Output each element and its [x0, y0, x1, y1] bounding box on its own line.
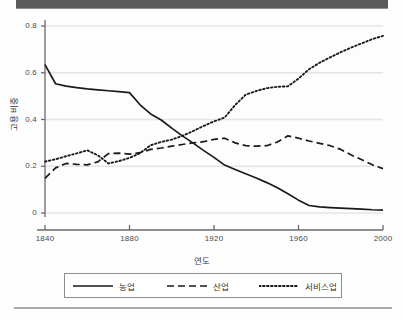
chart-legend: 농업산업서비스업 — [64, 273, 342, 298]
x-tick-label: 1840 — [25, 234, 65, 243]
legend-swatch-dotted — [259, 281, 299, 291]
legend-swatch-dashed — [167, 281, 207, 291]
chart-figure: 00.20.40.60.8 18401880192019602000 고용 비중… — [0, 8, 403, 304]
scanned-page: 00.20.40.60.8 18401880192019602000 고용 비중… — [0, 0, 403, 320]
page-footer-rule — [14, 307, 392, 309]
legend-label: 산업 — [213, 280, 229, 292]
y-tick-label: 0.2 — [13, 161, 37, 170]
x-tick-label: 1920 — [194, 234, 234, 243]
legend-label: 농업 — [119, 280, 135, 292]
y-tick-label: 0.8 — [13, 21, 37, 30]
legend-swatch-solid — [73, 281, 113, 291]
y-tick-label: 0.6 — [13, 68, 37, 77]
legend-entry-0: 농업 — [73, 274, 135, 297]
y-axis-title: 고용 비중 — [7, 89, 19, 139]
y-tick-label: 0 — [13, 208, 37, 217]
legend-label: 서비스업 — [305, 280, 337, 292]
x-tick-label: 1960 — [279, 234, 319, 243]
series-line-2 — [45, 36, 383, 164]
x-tick-label: 2000 — [363, 234, 403, 243]
legend-entry-1: 산업 — [167, 274, 229, 297]
x-axis-title: 연도 — [0, 254, 403, 266]
x-tick-label: 1880 — [110, 234, 150, 243]
series-line-0 — [45, 65, 383, 211]
legend-entry-2: 서비스업 — [259, 274, 337, 297]
